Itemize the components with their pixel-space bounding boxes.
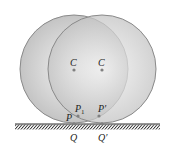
label-p1-sub: 1 <box>81 108 85 116</box>
point-p-prime <box>97 114 100 117</box>
diagram-canvas: C C P1 P′ P Q Q′ <box>0 0 174 153</box>
center-point-left <box>72 68 75 71</box>
ground-hatching <box>15 125 160 130</box>
label-p: P <box>65 112 72 123</box>
point-q <box>73 122 75 124</box>
label-q-prime: Q′ <box>98 132 108 143</box>
point-p1 <box>76 114 79 117</box>
label-p-prime: P′ <box>97 103 107 114</box>
point-q-prime <box>101 122 103 124</box>
rolling-circle-diagram: C C P1 P′ P Q Q′ <box>0 0 174 153</box>
label-center-left: C <box>70 57 77 68</box>
label-q: Q <box>70 132 78 143</box>
label-p1-main: P <box>74 103 81 114</box>
label-center-right: C <box>98 57 105 68</box>
center-point-right <box>100 68 103 71</box>
